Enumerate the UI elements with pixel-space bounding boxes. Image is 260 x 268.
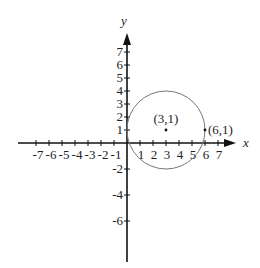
svg-text:-6: -6 xyxy=(46,147,57,162)
svg-text:-2: -2 xyxy=(98,147,109,162)
svg-text:4: 4 xyxy=(177,147,184,162)
svg-text:3: 3 xyxy=(164,147,171,162)
coordinate-plane: -7 -6 -5 -4 -3 -2 -1 1 2 3 4 5 6 7 7 6 5… xyxy=(0,0,260,268)
x-axis-label: x xyxy=(242,135,249,150)
point-label: (6,1) xyxy=(208,122,233,137)
center-point xyxy=(165,129,168,132)
center-label: (3,1) xyxy=(154,111,179,126)
svg-text:-5: -5 xyxy=(59,147,70,162)
y-axis-label: y xyxy=(119,13,127,28)
svg-text:-4: -4 xyxy=(72,147,83,162)
svg-text:6: 6 xyxy=(203,147,210,162)
svg-text:-6: -6 xyxy=(112,213,123,228)
svg-text:-3: -3 xyxy=(85,147,96,162)
svg-text:1: 1 xyxy=(117,122,124,137)
svg-text:-1: -1 xyxy=(111,147,122,162)
svg-text:2: 2 xyxy=(151,147,158,162)
y-tick-labels: 7 6 5 4 3 2 1 -2 -4 -6 xyxy=(112,44,123,228)
svg-text:-2: -2 xyxy=(112,161,123,176)
svg-text:-4: -4 xyxy=(112,187,123,202)
edge-point xyxy=(204,129,207,132)
svg-text:7: 7 xyxy=(216,147,223,162)
x-axis-arrow-icon xyxy=(224,139,236,147)
y-axis-arrow-icon xyxy=(123,33,131,45)
svg-text:-7: -7 xyxy=(33,147,44,162)
